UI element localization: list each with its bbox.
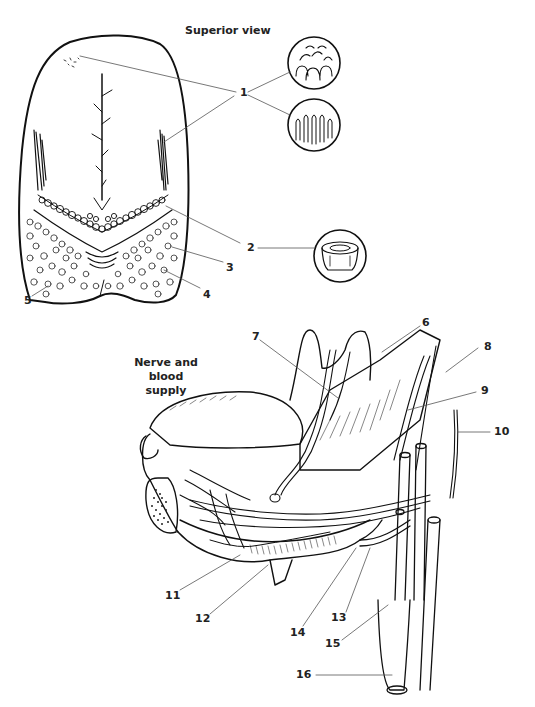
nerve-title-line2: supply (124, 384, 208, 398)
label-3: 3 (226, 261, 234, 274)
label-10: 10 (494, 425, 509, 438)
label-6: 6 (422, 316, 430, 329)
vessels (360, 444, 440, 695)
tongue-superior-outline (19, 35, 188, 303)
label-16: 16 (296, 668, 311, 681)
label-4: 4 (203, 288, 211, 301)
filiform-papillae-circle (288, 99, 340, 151)
nerve-title-line1: Nerve and blood (124, 356, 208, 384)
nerve-blood-supply-title: Nerve and blood supply (124, 356, 208, 398)
label-12: 12 (195, 612, 210, 625)
tip-stippling (64, 58, 79, 67)
label-13: 13 (331, 611, 346, 624)
mandible-section-stipple (151, 489, 169, 525)
label-14: 14 (290, 626, 305, 639)
label-9: 9 (481, 384, 489, 397)
label-15: 15 (325, 637, 340, 650)
label-2: 2 (247, 241, 255, 254)
label-1: 1 (240, 86, 248, 99)
label-8: 8 (484, 340, 492, 353)
label-7: 7 (252, 330, 260, 343)
label-5: 5 (24, 294, 32, 307)
leader-lines (32, 56, 490, 675)
superior-view-title: Superior view (185, 24, 271, 38)
vallate-papilla-circle (314, 230, 366, 282)
tongue-anatomy-diagram (0, 0, 535, 707)
label-11: 11 (165, 589, 180, 602)
lingual-tonsil-texture (27, 219, 177, 297)
fungiform-papillae-circle (288, 37, 340, 89)
